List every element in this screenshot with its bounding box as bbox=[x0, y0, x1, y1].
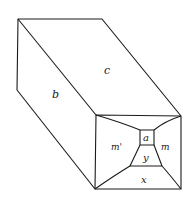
edge-x-right bbox=[162, 166, 181, 189]
edge-m-prime-top bbox=[96, 115, 140, 130]
face-label-m-prime: m' bbox=[111, 142, 122, 152]
crystal-drawing: c b m' a m y x bbox=[0, 0, 191, 204]
edge-x-left bbox=[95, 166, 130, 189]
face-label-m: m bbox=[161, 142, 170, 152]
face-label-c: c bbox=[104, 64, 110, 77]
crystal-diagram: c b m' a m y x bbox=[0, 0, 191, 204]
face-label-a: a bbox=[143, 132, 149, 143]
front-face-outline bbox=[95, 115, 181, 189]
face-label-x: x bbox=[141, 174, 147, 185]
face-label-y: y bbox=[142, 152, 149, 163]
edge-m-top bbox=[154, 116, 181, 130]
face-label-b: b bbox=[52, 88, 59, 101]
edge-top-back bbox=[17, 19, 181, 116]
edge-diagonal-bottom bbox=[17, 90, 95, 189]
